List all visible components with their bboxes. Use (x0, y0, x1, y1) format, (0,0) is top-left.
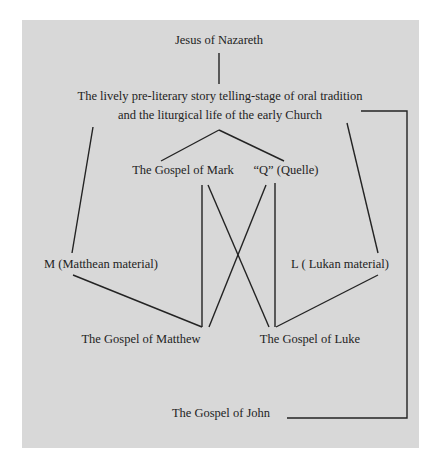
node-q-quelle: “Q” (Quelle) (254, 163, 319, 177)
node-gospel-matthew: The Gospel of Matthew (81, 332, 200, 346)
edge-oral-mark (161, 130, 219, 161)
edge-oral-q (219, 130, 284, 161)
node-jesus: Jesus of Nazareth (175, 33, 263, 47)
edge-oral-l (347, 123, 378, 253)
node-oral-tradition-line2: and the liturgical life of the early Chu… (118, 108, 322, 122)
edge-l-luke (276, 275, 378, 327)
node-gospel-john: The Gospel of John (172, 406, 270, 420)
edge-oral-m (72, 127, 93, 253)
node-gospel-mark: The Gospel of Mark (132, 163, 234, 177)
node-l-lukan: L ( Lukan material) (291, 257, 389, 271)
edge-m-matthew (73, 275, 202, 327)
node-oral-tradition-line1: The lively pre-literary story telling-st… (78, 89, 363, 103)
node-m-matthean: M (Matthean material) (44, 257, 158, 271)
connector-lines (0, 0, 438, 462)
node-gospel-luke: The Gospel of Luke (260, 332, 360, 346)
